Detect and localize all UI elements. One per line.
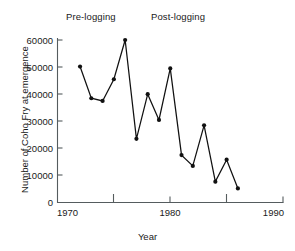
data-point (236, 186, 240, 190)
data-point (134, 137, 138, 141)
x-tick-labels: 1970 1980 1990 (57, 207, 284, 218)
data-point (179, 153, 183, 157)
chart-figure: Pre-logging Post-logging Number of Coho … (0, 0, 295, 251)
data-point (112, 77, 116, 81)
y-tick-label: 60000 (27, 35, 53, 46)
data-line-coho-fry (80, 40, 238, 188)
data-point (157, 118, 161, 122)
data-point (202, 123, 206, 127)
data-point (191, 164, 195, 168)
data-point (101, 99, 105, 103)
y-tick-label: 40000 (27, 89, 53, 100)
plot-area: 60000 50000 40000 30000 20000 10000 0 (0, 0, 295, 251)
data-point (225, 158, 229, 162)
data-point (89, 96, 93, 100)
y-tick-label: 50000 (27, 62, 53, 73)
y-tick-labels: 60000 50000 40000 30000 20000 10000 0 (27, 35, 53, 208)
y-tick-label: 0 (48, 197, 53, 208)
x-tick-label: 1990 (263, 207, 284, 218)
data-point (146, 92, 150, 96)
axis-lines (58, 38, 284, 203)
x-axis-ticks (114, 194, 284, 203)
data-point (123, 38, 127, 42)
y-axis-ticks (58, 40, 63, 175)
y-tick-label: 10000 (27, 170, 53, 181)
y-tick-label: 20000 (27, 143, 53, 154)
data-markers (78, 38, 240, 191)
data-point (213, 180, 217, 184)
x-tick-label: 1970 (57, 207, 78, 218)
x-tick-label: 1980 (159, 207, 180, 218)
y-tick-label: 30000 (27, 116, 53, 127)
data-point (78, 64, 82, 68)
data-point (168, 66, 172, 70)
